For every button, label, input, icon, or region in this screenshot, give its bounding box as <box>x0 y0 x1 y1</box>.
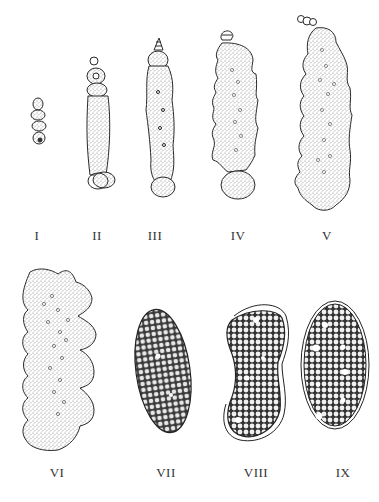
panel-label-VIII: VIII <box>244 465 268 481</box>
panel-label-VII: VII <box>156 465 176 481</box>
specimen-VII <box>128 306 199 436</box>
figure-caption-cropped <box>4 495 379 502</box>
panel-label-IX: IX <box>336 465 351 481</box>
panel-label-III: III <box>148 228 163 244</box>
panel-label-II: II <box>92 228 102 244</box>
panel-label-VI: VI <box>50 465 65 481</box>
scientific-figure: I II III IV V VI VII VIII IX <box>0 0 379 502</box>
specimen-V <box>295 16 352 211</box>
specimen-VIII <box>224 305 289 441</box>
specimen-drawings <box>0 0 379 502</box>
specimen-VI <box>23 269 96 451</box>
specimen-II <box>87 57 115 189</box>
panel-label-I: I <box>35 228 40 244</box>
panel-label-V: V <box>322 228 332 244</box>
specimen-IX <box>301 301 369 429</box>
specimen-IV <box>212 31 258 199</box>
specimen-I <box>31 98 46 144</box>
specimen-III <box>146 38 175 197</box>
panel-label-IV: IV <box>231 228 246 244</box>
